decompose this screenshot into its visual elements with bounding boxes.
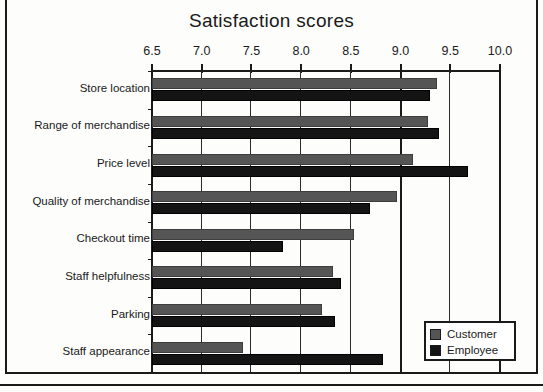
category-axis-tick — [148, 146, 153, 147]
category-axis-tick — [148, 109, 153, 110]
category-axis-tick — [148, 184, 153, 185]
legend-label-employee: Employee — [447, 343, 498, 357]
bar-customer — [152, 191, 397, 202]
x-axis-tick-label: 8.5 — [331, 44, 371, 58]
legend-swatch-customer-icon — [430, 329, 441, 340]
x-axis-tick-label: 10.0 — [480, 44, 520, 58]
bar-customer — [152, 304, 322, 315]
bar-customer — [152, 78, 437, 89]
legend-label-customer: Customer — [447, 327, 497, 341]
category-label: Store location — [0, 82, 150, 94]
bar-employee — [152, 278, 341, 289]
bar-customer — [152, 116, 428, 127]
category-label: Price level — [0, 157, 150, 169]
bar-employee — [152, 90, 430, 101]
bar-employee — [152, 241, 283, 252]
x-axis-tick-label: 7.5 — [231, 44, 271, 58]
bar-customer — [152, 154, 413, 165]
category-label: Parking — [0, 308, 150, 320]
category-axis-tick — [148, 222, 153, 223]
bar-employee — [152, 166, 468, 177]
x-axis-tick-label: 6.5 — [132, 44, 172, 58]
bar-employee — [152, 128, 439, 139]
category-axis-tick — [148, 71, 153, 72]
legend-item-employee: Employee — [430, 342, 510, 358]
x-axis-tick-label: 9.0 — [381, 44, 421, 58]
bar-employee — [152, 203, 370, 214]
x-axis-tick-label: 7.0 — [182, 44, 222, 58]
category-axis-tick — [148, 259, 153, 260]
bar-customer — [152, 229, 354, 240]
category-label: Quality of merchandise — [0, 195, 150, 207]
bar-customer — [152, 342, 243, 353]
bar-employee — [152, 354, 383, 365]
category-label: Checkout time — [0, 232, 150, 244]
bar-customer — [152, 266, 333, 277]
x-axis-tick-label: 8.0 — [281, 44, 321, 58]
category-label: Staff helpfulness — [0, 270, 150, 282]
x-axis-tick-label: 9.5 — [430, 44, 470, 58]
category-label: Range of merchandise — [0, 119, 150, 131]
legend-item-customer: Customer — [430, 326, 510, 342]
category-axis-tick — [148, 297, 153, 298]
chart-legend: Customer Employee — [424, 321, 516, 361]
bar-employee — [152, 316, 335, 327]
category-axis-tick — [148, 334, 153, 335]
category-label: Staff appearance — [0, 345, 150, 357]
legend-swatch-employee-icon — [430, 345, 441, 356]
chart-figure: Satisfaction scores 6.57.07.58.08.59.09.… — [0, 0, 543, 392]
